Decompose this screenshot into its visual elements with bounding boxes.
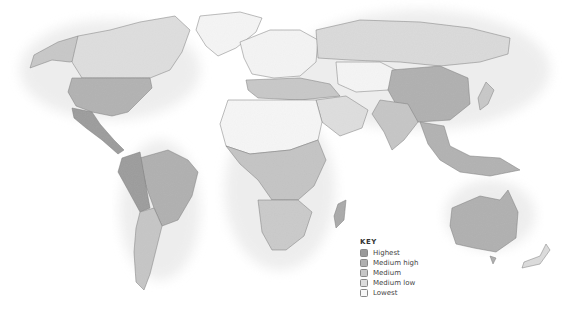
legend-label: Medium high <box>373 259 418 267</box>
legend-item-highest: Highest <box>360 248 470 258</box>
legend-label: Medium <box>373 269 401 277</box>
world-map <box>0 0 576 309</box>
legend-label: Highest <box>373 249 400 257</box>
region-southeast-asia <box>420 122 520 176</box>
legend-label: Lowest <box>373 289 397 297</box>
legend-swatch <box>360 289 368 297</box>
legend-swatch <box>360 279 368 287</box>
legend-swatch <box>360 249 368 257</box>
legend-label: Medium low <box>373 279 415 287</box>
region-new-zealand <box>522 244 550 268</box>
legend-title: KEY <box>360 238 470 246</box>
legend-item-medium-low: Medium low <box>360 278 470 288</box>
legend-item-medium-high: Medium high <box>360 258 470 268</box>
legend-swatch <box>360 259 368 267</box>
legend-swatch <box>360 269 368 277</box>
region-madagascar <box>334 200 346 228</box>
region-europe <box>240 30 318 78</box>
legend-item-medium: Medium <box>360 268 470 278</box>
legend-item-lowest: Lowest <box>360 288 470 298</box>
map-legend: KEY Highest Medium high Medium Medium lo… <box>360 238 470 298</box>
region-tasmania <box>490 256 496 264</box>
